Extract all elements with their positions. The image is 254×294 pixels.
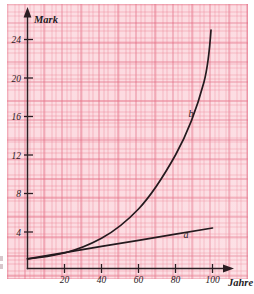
y-tick-label-16: 16 <box>12 112 22 122</box>
y-tick-label-12: 12 <box>12 151 22 161</box>
y-tick-labels: 4 8 12 16 20 24 <box>12 35 22 238</box>
y-tick-label-20: 20 <box>12 74 22 84</box>
x-tick-label-40: 40 <box>97 275 107 285</box>
curve-label-b: b <box>189 108 194 119</box>
x-axis-title: Jahre <box>227 277 253 288</box>
y-axis <box>24 7 32 269</box>
y-tick-label-4: 4 <box>16 228 21 238</box>
plot-area: 4 8 12 16 20 24 20 40 60 80 100 Mark Jah… <box>0 0 254 294</box>
x-tick-label-80: 80 <box>171 275 181 285</box>
x-tick-label-60: 60 <box>134 275 144 285</box>
x-axis-arrowhead <box>223 264 234 272</box>
x-tick-labels: 20 40 60 80 100 <box>60 275 220 285</box>
curve-b-exponential <box>28 30 212 259</box>
y-axis-title: Mark <box>33 14 59 25</box>
x-tick-label-100: 100 <box>205 275 220 285</box>
curve-label-a: a <box>184 229 189 240</box>
x-tick-label-20: 20 <box>60 275 70 285</box>
y-tick-label-8: 8 <box>16 189 21 199</box>
x-axis <box>28 264 235 272</box>
graph-figure: 4 8 12 16 20 24 20 40 60 80 100 Mark Jah… <box>0 0 254 294</box>
y-axis-arrowhead <box>24 7 32 18</box>
y-tick-label-24: 24 <box>12 35 22 45</box>
y-tick-marks <box>24 40 33 233</box>
